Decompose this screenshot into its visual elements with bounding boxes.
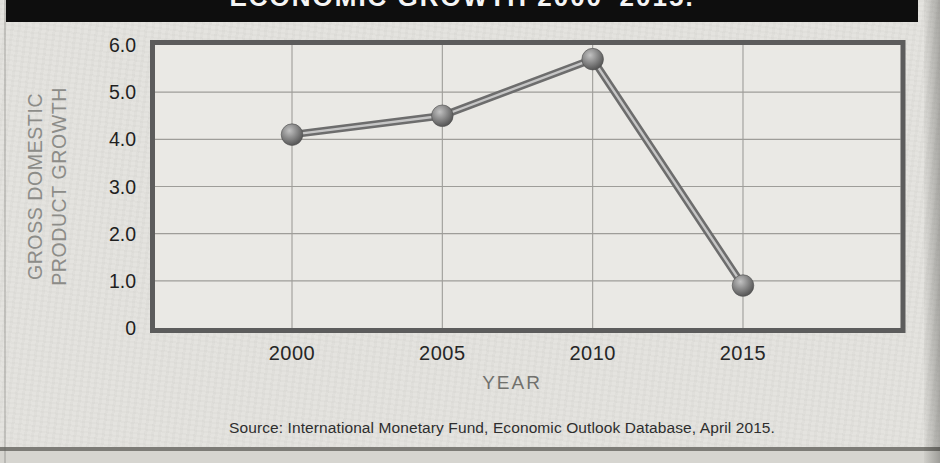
- figure-title-clipped: ECONOMIC GROWTH 2000–2015.: [6, 0, 918, 10]
- figure-title-bar: ECONOMIC GROWTH 2000–2015.: [6, 0, 918, 22]
- page-edge-shadow-right: [924, 0, 940, 463]
- scanned-book-figure: ECONOMIC GROWTH 2000–2015. GROSS DOMESTI…: [0, 0, 940, 463]
- x-tick-label: 2015: [698, 342, 788, 364]
- x-tick-label: 2005: [397, 342, 487, 364]
- x-tick-label: 2000: [247, 342, 337, 364]
- page-bottom-strip: [0, 451, 940, 463]
- page-edge-line-left: [4, 0, 6, 463]
- x-axis-title: YEAR: [412, 372, 612, 394]
- x-tick-label: 2010: [548, 342, 638, 364]
- source-citation: Source: International Monetary Fund, Eco…: [64, 419, 940, 437]
